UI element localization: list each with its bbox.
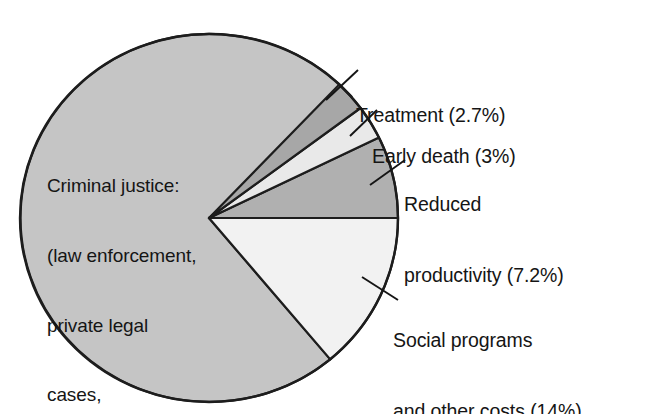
slice-label-social-programs-line1: Social programs: [393, 329, 582, 353]
slice-label-social-programs: Social programs and other costs (14%): [393, 282, 582, 414]
slice-label-criminal-justice-line1: Criminal justice:: [47, 174, 196, 197]
slice-label-social-programs-line2: and other costs (14%): [393, 400, 582, 414]
slice-label-criminal-justice-line2: (law enforcement,: [47, 244, 196, 267]
slice-label-criminal-justice-line4: cases,: [47, 383, 196, 406]
slice-label-criminal-justice: Criminal justice: (law enforcement, priv…: [47, 128, 196, 414]
slice-label-criminal-justice-line3: private legal: [47, 314, 196, 337]
slice-label-reduced-productivity-line1: Reduced: [404, 193, 564, 217]
pie-chart-figure: Treatment (2.7%) Early death (3%) Reduce…: [0, 0, 646, 414]
